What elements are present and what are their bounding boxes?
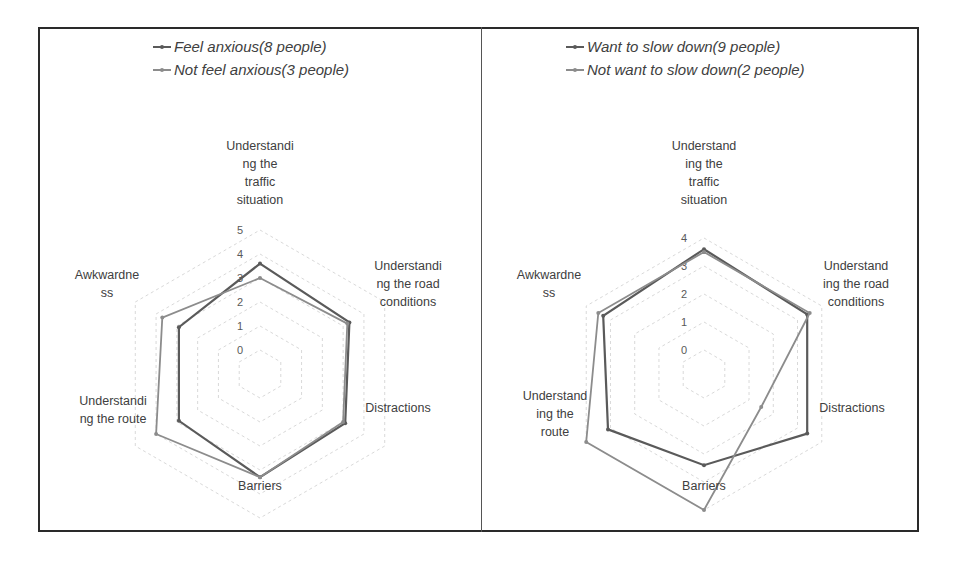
grid-ring [635, 294, 774, 454]
category-label: Understanding thetrafficsituation [672, 139, 737, 207]
radar-chart-2: 01234Understanding thetrafficsituationUn… [517, 139, 889, 512]
category-label: Distractions [365, 401, 430, 415]
tick-label: 2 [237, 296, 243, 308]
data-point [702, 463, 706, 467]
category-label: Understanding the roadconditions [823, 259, 889, 309]
data-point [606, 427, 610, 431]
tick-label: 4 [237, 248, 243, 260]
data-point [177, 419, 181, 423]
data-point [341, 420, 345, 424]
category-label: Awkwardness [75, 268, 139, 300]
data-point [759, 405, 763, 409]
category-label: Understanding thetrafficsituation [226, 139, 293, 207]
grid-ring [683, 350, 725, 398]
data-point [808, 311, 812, 315]
tick-label: 0 [237, 344, 243, 356]
tick-label: 1 [681, 316, 687, 328]
grid-ring [156, 254, 364, 494]
data-point [258, 276, 262, 280]
grid-ring [198, 302, 323, 446]
grid-ring [239, 350, 281, 398]
data-point [160, 316, 164, 320]
tick-label: 2 [681, 288, 687, 300]
data-point [596, 311, 600, 315]
category-label: Awkwardness [517, 268, 581, 300]
series-line [179, 264, 350, 478]
category-label: Barriers [682, 479, 726, 493]
series-line [156, 278, 347, 477]
tick-label: 5 [237, 224, 243, 236]
data-point [345, 322, 349, 326]
data-point [805, 432, 809, 436]
tick-label: 4 [681, 232, 687, 244]
series-line [603, 249, 807, 465]
category-label: Understanding the route [79, 394, 146, 426]
series-line [586, 252, 810, 510]
category-label: Distractions [819, 401, 884, 415]
data-point [154, 432, 158, 436]
tick-label: 1 [237, 320, 243, 332]
grid-ring [586, 238, 822, 510]
category-label: Barriers [238, 479, 282, 493]
data-point [584, 440, 588, 444]
tick-label: 0 [681, 344, 687, 356]
grid-ring [610, 266, 797, 482]
category-label: Understanding theroute [523, 389, 588, 439]
category-label: Understanding the roadconditions [374, 259, 441, 309]
data-point [702, 250, 706, 254]
grid-ring [218, 326, 301, 422]
grid-ring [659, 322, 749, 426]
data-point [258, 262, 262, 266]
radar-charts: 012345Understanding thetrafficsituationU… [0, 0, 954, 564]
data-point [601, 314, 605, 318]
radar-chart-1: 012345Understanding thetrafficsituationU… [75, 139, 442, 518]
data-point [702, 508, 706, 512]
data-point [177, 325, 181, 329]
